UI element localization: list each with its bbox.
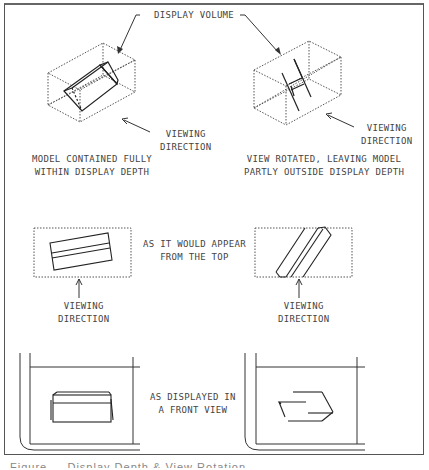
viewing-arrow-right — [328, 115, 354, 127]
front-view-model-right-clipped — [279, 392, 333, 421]
display-volume-label: DISPLAY VOLUME — [154, 9, 234, 22]
leader-display-volume-left — [120, 15, 140, 50]
front-view-center-label: AS DISPLAYED IN A FRONT VIEW — [150, 391, 236, 417]
viewing-direction-label-top-left: VIEWING DIRECTION — [160, 128, 211, 154]
top-view-box-right — [255, 228, 352, 277]
caption-top-right: VIEW ROTATED, LEAVING MODEL PARTLY OUTSI… — [244, 153, 404, 179]
top-view-model-right — [276, 227, 331, 277]
model-right-clipped — [282, 59, 311, 111]
viewing-direction-label-mid-right: VIEWING DIRECTION — [278, 300, 329, 326]
model-left — [64, 62, 118, 111]
viewing-direction-label-mid-left: VIEWING DIRECTION — [58, 300, 109, 326]
top-view-model-left — [50, 233, 112, 270]
leader-display-volume-right — [240, 15, 278, 52]
front-view-window-left — [20, 353, 140, 450]
display-volume-box-right — [254, 41, 341, 125]
viewing-direction-label-top-right: VIEWING DIRECTION — [361, 122, 412, 148]
viewing-arrow-left — [124, 120, 150, 132]
front-view-model-left — [51, 392, 113, 422]
top-view-center-label: AS IT WOULD APPEAR FROM THE TOP — [143, 238, 246, 264]
caption-top-left: MODEL CONTAINED FULLY WITHIN DISPLAY DEP… — [32, 153, 152, 179]
display-volume-box-left — [48, 43, 135, 122]
